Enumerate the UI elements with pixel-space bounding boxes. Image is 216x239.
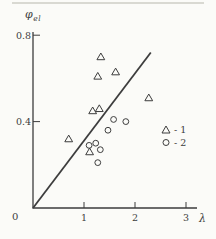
circle-marker-icon — [161, 138, 171, 147]
legend: - 1 - 2 — [161, 124, 186, 148]
legend-label-series-2: - 2 — [174, 137, 186, 148]
svg-text:1: 1 — [81, 212, 87, 223]
svg-text:0.4: 0.4 — [16, 116, 31, 127]
legend-item-series-2: - 2 — [161, 137, 186, 148]
x-axis-label: λ — [199, 212, 206, 225]
figure: φel 1230.40.8 0 λ - 1 - 2 — [0, 0, 216, 239]
svg-text:0.8: 0.8 — [16, 30, 31, 41]
svg-text:3: 3 — [183, 212, 189, 223]
svg-text:2: 2 — [132, 212, 138, 223]
legend-label-series-1: - 1 — [174, 124, 186, 135]
triangle-marker-icon — [161, 125, 171, 134]
scatter-plot: 1230.40.8 — [0, 0, 216, 239]
legend-item-series-1: - 1 — [161, 124, 186, 135]
origin-tick-label: 0 — [12, 211, 18, 222]
